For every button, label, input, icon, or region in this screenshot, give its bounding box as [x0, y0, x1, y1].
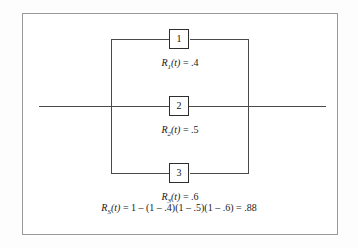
- component-box-3[interactable]: 3: [169, 163, 189, 183]
- branch-2-value: .5: [191, 124, 199, 135]
- component-box-3-number: 3: [177, 168, 182, 178]
- diagram-canvas: 1 R1(t) = .4 2 R2(t) = .5 3 R3(t) = .6 R…: [0, 0, 358, 248]
- right-parallel-rail: [248, 39, 249, 173]
- branch-1-arg: (t): [171, 57, 180, 68]
- branch-1-value: .4: [191, 57, 199, 68]
- branch-1-equals: =: [180, 57, 191, 68]
- branch-3-value: .6: [191, 191, 199, 202]
- branch-1-wire-left: [111, 39, 169, 40]
- component-box-1-number: 1: [177, 34, 182, 44]
- system-expression: = 1 – (1 – .4)(1 – .5)(1 – .6) = .88: [120, 202, 256, 213]
- branch-2-equals: =: [180, 124, 191, 135]
- branch-1-wire-right: [190, 39, 249, 40]
- branch-3-arg: (t): [171, 191, 180, 202]
- component-box-2-number: 2: [177, 101, 182, 111]
- component-box-1[interactable]: 1: [169, 29, 189, 49]
- system-arg: (t): [111, 202, 120, 213]
- branch-3-wire-right: [190, 173, 249, 174]
- component-box-2[interactable]: 2: [169, 96, 189, 116]
- branch-3-wire-left: [111, 173, 169, 174]
- branch-2-arg: (t): [171, 124, 180, 135]
- branch-1-reliability-label: R1(t) = .4: [161, 58, 198, 71]
- system-reliability-formula: RS(t) = 1 – (1 – .4)(1 – .5)(1 – .6) = .…: [101, 203, 256, 216]
- left-parallel-rail: [111, 39, 112, 173]
- branch-3-equals: =: [180, 191, 191, 202]
- branch-2-reliability-label: R2(t) = .5: [161, 125, 198, 138]
